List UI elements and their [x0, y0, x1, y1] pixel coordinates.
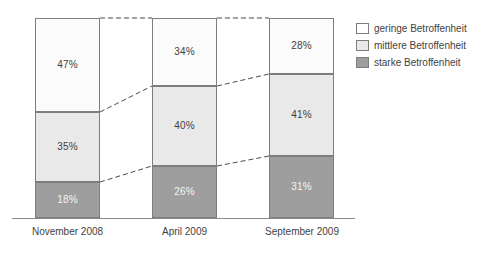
bar-september-2009[interactable]: 28% 41% 31% — [269, 18, 334, 218]
bar-segment-label: 40% — [174, 121, 195, 131]
legend-item-geringe[interactable]: geringe Betroffenheit — [356, 20, 481, 36]
legend-swatch-mittlere-icon — [356, 40, 369, 51]
legend-label: mittlere Betroffenheit — [374, 40, 466, 51]
bar-segment-geringe[interactable]: 34% — [152, 18, 217, 86]
bar-segment-label: 31% — [291, 182, 312, 192]
x-axis-label-november-2008: November 2008 — [20, 226, 115, 237]
bar-segment-geringe[interactable]: 47% — [35, 18, 100, 112]
legend: geringe Betroffenheit mittlere Betroffen… — [356, 20, 481, 71]
bar-segment-label: 34% — [174, 47, 195, 57]
bar-segment-geringe[interactable]: 28% — [269, 18, 334, 74]
connector-mid-1 — [100, 86, 152, 112]
legend-label: starke Betroffenheit — [374, 57, 461, 68]
bar-april-2009[interactable]: 34% 40% 26% — [152, 18, 217, 218]
bar-segment-mittlere[interactable]: 40% — [152, 86, 217, 166]
legend-item-starke[interactable]: starke Betroffenheit — [356, 54, 481, 70]
bar-segment-label: 41% — [291, 110, 312, 120]
bar-segment-label: 26% — [174, 187, 195, 197]
plot-area: 47% 35% 18% 34% 40% 26% 28% — [0, 0, 360, 240]
legend-swatch-geringe-icon — [356, 23, 369, 34]
bar-segment-label: 28% — [291, 41, 312, 51]
bar-segment-mittlere[interactable]: 35% — [35, 112, 100, 182]
legend-swatch-starke-icon — [356, 57, 369, 68]
connector-low-1 — [100, 166, 152, 182]
legend-item-mittlere[interactable]: mittlere Betroffenheit — [356, 37, 481, 53]
bar-segment-label: 47% — [57, 60, 78, 70]
legend-label: geringe Betroffenheit — [374, 23, 467, 34]
bar-segment-starke[interactable]: 18% — [35, 182, 100, 218]
bar-segment-label: 35% — [57, 142, 78, 152]
x-axis-line — [12, 218, 355, 219]
bar-segment-starke[interactable]: 26% — [152, 166, 217, 218]
connector-low-2 — [217, 156, 269, 166]
bar-segment-label: 18% — [57, 195, 78, 205]
stacked-bar-chart: 47% 35% 18% 34% 40% 26% 28% — [0, 0, 481, 258]
bar-segment-mittlere[interactable]: 41% — [269, 74, 334, 156]
cropped-caption-strip — [0, 252, 481, 258]
x-axis-label-september-2009: September 2009 — [252, 226, 352, 237]
x-axis-label-april-2009: April 2009 — [137, 226, 232, 237]
bar-segment-starke[interactable]: 31% — [269, 156, 334, 218]
bar-november-2008[interactable]: 47% 35% 18% — [35, 18, 100, 218]
connector-mid-2 — [217, 74, 269, 86]
